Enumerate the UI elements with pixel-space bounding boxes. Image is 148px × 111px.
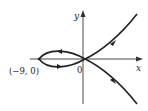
curve-lower-branch (85, 59, 137, 104)
origin-label: 0 (77, 65, 82, 75)
arrow-loop-top-icon (57, 49, 62, 54)
x-axis-arrow-icon (136, 57, 143, 62)
point-label: (−9, 0) (9, 66, 39, 76)
point-marker (38, 58, 41, 61)
arrow-loop-bottom-icon (57, 64, 62, 69)
curve-upper-branch (85, 14, 137, 59)
diagram-canvas: y x 0 (−9, 0) (0, 0, 148, 111)
y-axis-arrow-icon (81, 10, 86, 17)
y-axis-label: y (73, 11, 80, 21)
x-axis-label: x (136, 63, 141, 73)
